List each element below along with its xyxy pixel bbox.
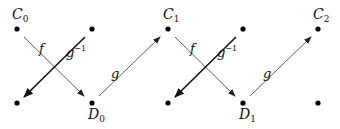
edge-label-g-1: g (263, 66, 271, 81)
edge-label-ginv-1: g−1 (217, 44, 237, 60)
edge-label-f-0: f (38, 41, 46, 56)
label-d0: D0 (87, 106, 105, 124)
node-d0 (89, 100, 94, 105)
node-bottom-2 (165, 100, 170, 105)
label-c0: C0 (12, 6, 29, 24)
node-top-3 (240, 26, 245, 31)
commutative-diagram: C0 C1 C2 D0 D1 f g−1 g f g−1 g (0, 0, 340, 129)
node-top-1 (89, 26, 94, 31)
node-c1 (165, 26, 170, 31)
label-c2: C2 (313, 6, 329, 24)
node-c0 (14, 26, 19, 31)
node-c2 (315, 26, 320, 31)
label-d1: D1 (238, 106, 256, 124)
node-d1 (240, 100, 245, 105)
diagram-canvas: C0 C1 C2 D0 D1 f g−1 g f g−1 g (0, 0, 340, 129)
node-bottom-4 (315, 100, 320, 105)
edge-g-d1-c2 (250, 37, 311, 96)
label-c1: C1 (163, 6, 179, 24)
edge-g-d0-c1 (99, 37, 160, 96)
edge-label-ginv-0: g−1 (66, 44, 86, 60)
node-bottom-0 (14, 100, 19, 105)
edge-label-g-0: g (111, 66, 119, 81)
edge-label-f-1: f (189, 41, 197, 56)
